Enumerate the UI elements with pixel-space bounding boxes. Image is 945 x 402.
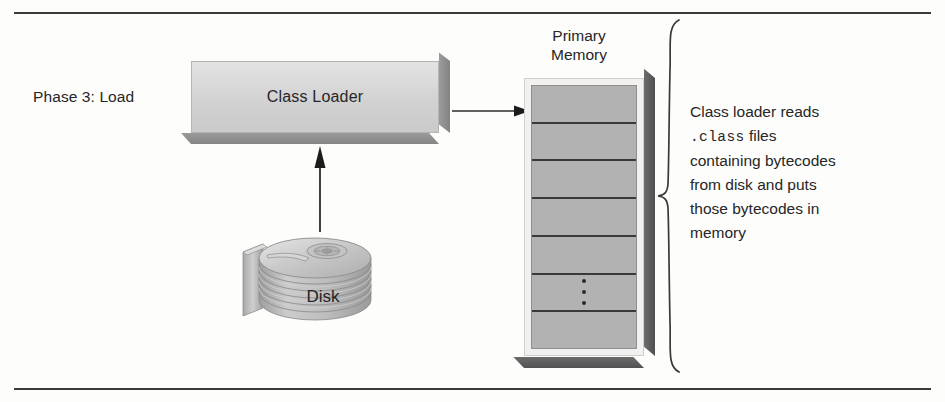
memory-cell	[532, 237, 636, 275]
memory-cell	[532, 312, 636, 348]
memory-cell-ellipsis	[532, 275, 636, 313]
annotation-line-2: .class files	[690, 124, 900, 149]
memory-cell	[532, 86, 636, 124]
load-phase-diagram: Phase 3: Load Class Loader	[0, 0, 945, 402]
disk-illustration: Disk	[237, 222, 389, 330]
primary-memory-line-2: Memory	[519, 45, 639, 64]
memory-face	[531, 85, 637, 349]
class-loader-right-shadow	[439, 52, 450, 133]
class-loader-to-memory-arrow	[452, 103, 530, 115]
phase-label: Phase 3: Load	[33, 88, 134, 106]
primary-memory-line-1: Primary	[519, 26, 639, 45]
primary-memory-block	[524, 78, 655, 368]
primary-memory-caption: Primary Memory	[519, 26, 639, 64]
class-loader-box: Class Loader	[191, 61, 450, 144]
annotation-line-3: containing bytecodes	[690, 149, 900, 173]
class-loader-face: Class Loader	[191, 61, 439, 133]
memory-cell	[532, 161, 636, 199]
disk-label: Disk	[306, 287, 340, 306]
annotation-line-5: those bytecodes in	[690, 197, 900, 221]
memory-right-shadow	[644, 69, 655, 356]
memory-outline	[524, 78, 644, 356]
annotation-text: Class loader reads .class files containi…	[690, 100, 900, 245]
annotation-line-4: from disk and puts	[690, 173, 900, 197]
class-loader-bottom-shadow	[181, 133, 439, 144]
annotation-line-6: memory	[690, 221, 900, 245]
disk-top-platter	[259, 238, 371, 278]
class-file-extension-token: .class	[690, 129, 745, 145]
annotation-line-2-rest: files	[745, 127, 777, 144]
disk-to-class-loader-arrow	[313, 146, 327, 232]
memory-cell	[532, 124, 636, 162]
annotation-line-1: Class loader reads	[690, 100, 900, 124]
annotation-brace	[655, 18, 685, 374]
bottom-divider-rule	[14, 388, 931, 390]
top-divider-rule	[14, 12, 931, 14]
vertical-ellipsis-icon	[532, 279, 636, 305]
memory-bottom-shadow	[513, 357, 644, 368]
memory-cell	[532, 199, 636, 237]
class-loader-label: Class Loader	[267, 88, 364, 106]
